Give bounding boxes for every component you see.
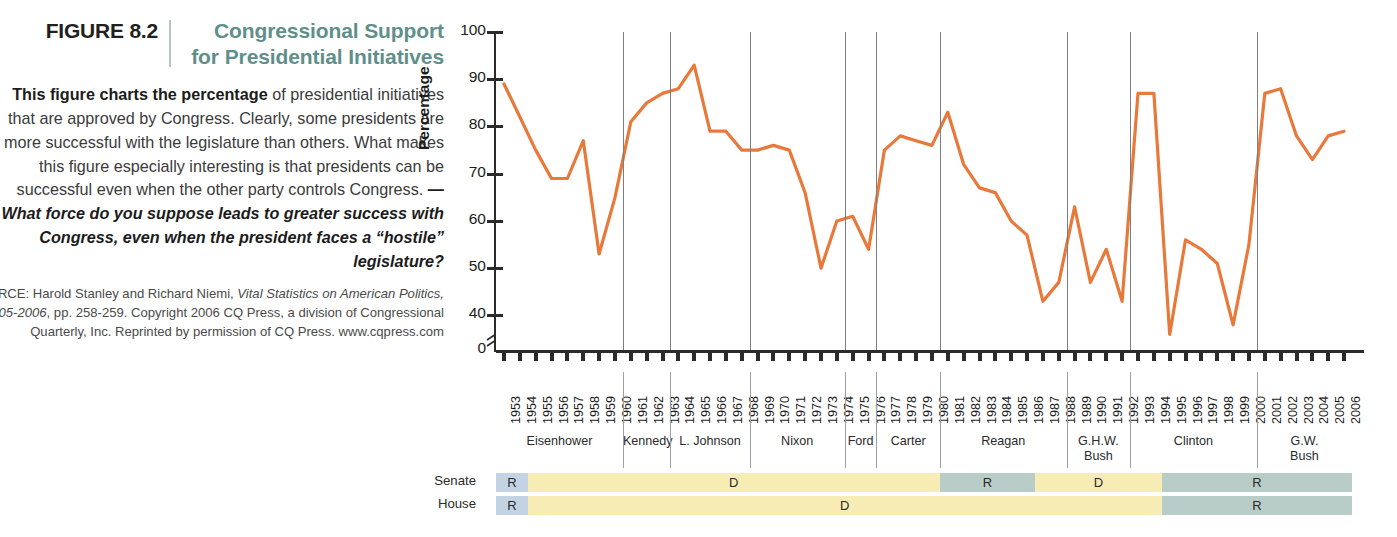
year-label: 1987 — [1048, 396, 1062, 424]
party-control-segment: D — [528, 496, 1162, 515]
year-label: 1983 — [985, 396, 999, 424]
party-control-segment: D — [1035, 473, 1162, 492]
x-tick-mark — [740, 351, 744, 361]
x-tick-mark — [534, 351, 538, 361]
president-separator — [623, 372, 624, 468]
president-label: L. Johnson — [670, 428, 749, 468]
x-tick-mark — [550, 351, 554, 361]
president-label: Nixon — [750, 428, 845, 468]
year-label: 1986 — [1032, 396, 1046, 424]
party-control-rows: Senate House RDRDRRDR — [0, 470, 1397, 524]
chart-region: Percentage 1009080706050400 195319541955… — [0, 0, 1397, 537]
president-separator — [1067, 372, 1068, 468]
x-tick-mark — [787, 351, 791, 361]
x-tick-mark — [613, 351, 617, 361]
x-tick-mark — [803, 351, 807, 361]
x-tick-mark — [661, 351, 665, 361]
x-tick-mark — [1326, 351, 1330, 361]
x-tick-mark — [1295, 351, 1299, 361]
year-label: 1998 — [1222, 396, 1236, 424]
year-label: 2003 — [1302, 396, 1316, 424]
x-tick-mark — [676, 351, 680, 361]
y-tick-label: 70 — [444, 163, 486, 181]
plot-area — [496, 32, 1358, 350]
year-label: 1984 — [1000, 396, 1014, 424]
x-tick-mark — [724, 351, 728, 361]
president-separator — [670, 372, 671, 468]
year-label: 1999 — [1238, 396, 1252, 424]
x-tick-mark — [1247, 351, 1251, 361]
x-tick-mark — [993, 351, 997, 361]
x-tick-mark — [851, 351, 855, 361]
party-control-segment: R — [940, 473, 1035, 492]
term-divider — [1130, 32, 1131, 350]
y-tick-labels: 1009080706050400 — [440, 0, 486, 360]
term-divider — [876, 32, 877, 350]
year-label: 1979 — [921, 396, 935, 424]
x-tick-mark — [1041, 351, 1045, 361]
year-label: 1966 — [715, 396, 729, 424]
y-tick-label: 90 — [444, 68, 486, 86]
x-tick-mark — [819, 351, 823, 361]
x-tick-mark — [1310, 351, 1314, 361]
year-label: 1982 — [969, 396, 983, 424]
y-tick-mark — [487, 267, 503, 270]
x-tick-mark — [867, 351, 871, 361]
president-band: EisenhowerKennedyL. JohnsonNixonFordCart… — [496, 428, 1364, 468]
x-tick-mark — [835, 351, 839, 361]
year-label: 2001 — [1270, 396, 1284, 424]
x-tick-mark — [756, 351, 760, 361]
year-label: 1961 — [636, 396, 650, 424]
president-label: Carter — [876, 428, 939, 468]
year-label: 2006 — [1349, 396, 1363, 424]
x-tick-mark — [771, 351, 775, 361]
x-tick-mark — [708, 351, 712, 361]
year-label: 1969 — [763, 396, 777, 424]
year-label: 1959 — [604, 396, 618, 424]
x-tick-mark — [882, 351, 886, 361]
party-control-segment: R — [1162, 496, 1352, 515]
year-label: 1996 — [1191, 396, 1205, 424]
x-tick-mark — [1184, 351, 1188, 361]
term-divider — [845, 32, 846, 350]
president-label: Ford — [845, 428, 877, 468]
year-label: 1985 — [1016, 396, 1030, 424]
term-divider — [1067, 32, 1068, 350]
term-divider — [750, 32, 751, 350]
president-label: Reagan — [940, 428, 1067, 468]
x-tick-mark — [1279, 351, 1283, 361]
x-tick-mark — [1168, 351, 1172, 361]
party-control-segment: R — [496, 473, 528, 492]
y-tick-mark — [487, 173, 503, 176]
year-label: 1964 — [683, 396, 697, 424]
year-label: 2002 — [1286, 396, 1300, 424]
x-tick-mark — [518, 351, 522, 361]
x-tick-mark — [1231, 351, 1235, 361]
year-label: 1955 — [541, 396, 555, 424]
x-tick-mark — [1342, 351, 1346, 361]
y-axis-label: Percentage — [415, 66, 433, 150]
x-tick-mark — [1073, 351, 1077, 361]
year-label: 2005 — [1333, 396, 1347, 424]
y-tick-label: 50 — [444, 257, 486, 275]
president-label: G.W.Bush — [1257, 428, 1352, 468]
year-label: 1977 — [889, 396, 903, 424]
x-tick-mark — [1136, 351, 1140, 361]
year-label: 1971 — [794, 396, 808, 424]
x-tick-mark — [962, 351, 966, 361]
year-label: 1958 — [588, 396, 602, 424]
year-label: 1970 — [778, 396, 792, 424]
y-tick-label: 80 — [444, 115, 486, 133]
president-label: Clinton — [1130, 428, 1257, 468]
president-label: Eisenhower — [496, 428, 623, 468]
x-tick-mark — [1088, 351, 1092, 361]
president-separator — [940, 372, 941, 468]
term-divider — [623, 32, 624, 350]
year-label: 1994 — [1159, 396, 1173, 424]
x-tick-mark — [1215, 351, 1219, 361]
president-label: G.H.W.Bush — [1067, 428, 1130, 468]
year-label: 1957 — [572, 396, 586, 424]
x-tick-mark — [597, 351, 601, 361]
x-tick-mark — [978, 351, 982, 361]
x-tick-mark — [914, 351, 918, 361]
